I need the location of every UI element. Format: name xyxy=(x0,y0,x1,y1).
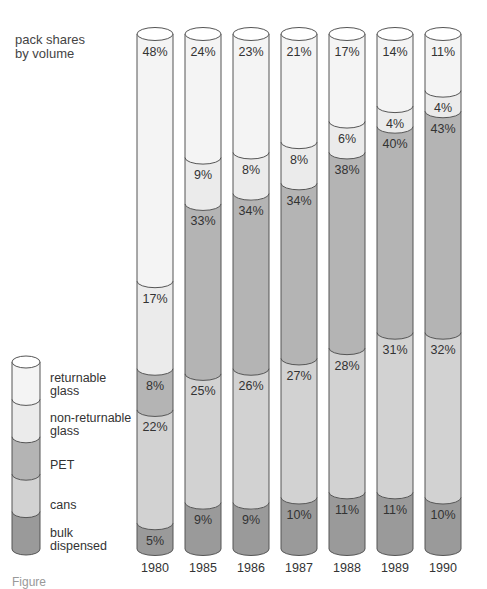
cylinder-top xyxy=(329,28,365,41)
segment xyxy=(377,127,413,340)
value-label: 9% xyxy=(242,513,260,527)
x-tick-label: 1980 xyxy=(141,561,169,575)
value-label: 6% xyxy=(338,132,356,146)
value-label: 8% xyxy=(146,379,164,393)
segment xyxy=(281,183,317,365)
segment xyxy=(185,204,221,380)
cylinder-top xyxy=(281,28,317,41)
legend-item-pet: PET xyxy=(50,459,74,472)
value-label: 4% xyxy=(434,101,452,115)
segment xyxy=(233,503,269,556)
value-label: 17% xyxy=(142,292,167,306)
value-label: 22% xyxy=(142,420,167,434)
legend-label-line1: PET xyxy=(50,459,74,472)
x-tick-label: 1987 xyxy=(285,561,313,575)
value-label: 8% xyxy=(242,163,260,177)
value-label: 10% xyxy=(286,508,311,522)
bar-1987: 10%27%34%8%21% xyxy=(281,28,317,556)
cylinder-top xyxy=(12,356,40,368)
cylinder-top xyxy=(233,28,269,41)
value-label: 27% xyxy=(286,369,311,383)
segment xyxy=(12,362,40,405)
segment xyxy=(425,34,461,97)
segment xyxy=(12,399,40,442)
value-label: 17% xyxy=(334,45,359,59)
x-tick-label: 1990 xyxy=(429,561,457,575)
segment xyxy=(233,194,269,376)
cylinder-top xyxy=(377,28,413,41)
legend-item-bulk-dispensed: bulk dispensed xyxy=(50,527,107,553)
value-label: 26% xyxy=(238,379,263,393)
segment xyxy=(185,503,221,556)
cylinder-top xyxy=(185,28,221,41)
value-label: 28% xyxy=(334,359,359,373)
x-tick-label: 1989 xyxy=(381,561,409,575)
legend-label-line2: glass xyxy=(50,425,131,438)
legend-item-cans: cans xyxy=(50,499,76,512)
segment xyxy=(329,492,365,555)
segment xyxy=(12,437,40,480)
bar-1986: 9%26%34%8%23% xyxy=(233,28,269,556)
value-label: 11% xyxy=(431,45,455,59)
value-label: 11% xyxy=(383,503,407,517)
value-label: 40% xyxy=(382,137,407,151)
value-label: 31% xyxy=(382,343,407,357)
bar-1990: 10%32%43%4%11% xyxy=(425,28,461,556)
legend-label-line2: glass xyxy=(50,385,106,398)
value-label: 14% xyxy=(382,45,407,59)
value-label: 9% xyxy=(194,168,212,182)
value-label: 43% xyxy=(430,122,455,136)
segment xyxy=(377,333,413,499)
segment xyxy=(329,152,365,354)
value-label: 33% xyxy=(190,214,215,228)
x-tick-label: 1985 xyxy=(189,561,217,575)
segment xyxy=(12,512,40,555)
value-label: 11% xyxy=(335,503,359,517)
segment xyxy=(425,333,461,504)
value-label: 5% xyxy=(146,534,164,548)
value-label: 25% xyxy=(190,384,215,398)
legend-item-non-returnable-glass: non-returnable glass xyxy=(50,412,131,438)
legend-label-line2: dispensed xyxy=(50,540,107,553)
value-label: 9% xyxy=(194,513,212,527)
segment xyxy=(281,498,317,556)
legend-item-returnable-glass: returnable glass xyxy=(50,372,106,398)
segment xyxy=(185,158,221,211)
segment xyxy=(425,111,461,339)
x-tick-label: 1988 xyxy=(333,561,361,575)
bar-1989: 11%31%40%4%14% xyxy=(377,28,413,556)
value-label: 34% xyxy=(238,204,263,218)
legend-label-line1: cans xyxy=(50,499,76,512)
segment xyxy=(377,492,413,555)
bar-1988: 11%28%38%6%17% xyxy=(329,28,365,556)
segment xyxy=(425,498,461,556)
value-label: 4% xyxy=(386,117,404,131)
legend-cylinder xyxy=(12,356,40,555)
value-label: 24% xyxy=(190,45,215,59)
value-label: 38% xyxy=(334,163,359,177)
value-label: 23% xyxy=(238,45,263,59)
value-label: 21% xyxy=(286,45,311,59)
cylinder-top xyxy=(425,28,461,41)
bar-1980: 5%22%8%17%48% xyxy=(137,28,173,556)
value-label: 32% xyxy=(430,343,455,357)
value-label: 34% xyxy=(286,194,311,208)
value-label: 10% xyxy=(430,508,455,522)
segment xyxy=(12,474,40,517)
cylinder-top xyxy=(137,28,173,41)
x-tick-label: 1986 xyxy=(237,561,265,575)
figure-caption: Figure xyxy=(12,575,46,589)
value-label: 48% xyxy=(142,45,167,59)
segment xyxy=(137,34,173,288)
value-label: 8% xyxy=(290,153,308,167)
bar-1985: 9%25%33%9%24% xyxy=(185,28,221,556)
